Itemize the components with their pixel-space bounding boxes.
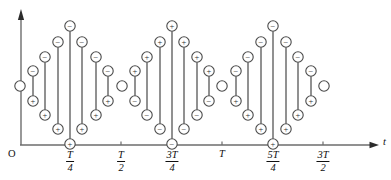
tick-label-five-t-quarter: 5T4 — [266, 149, 279, 174]
stem-node-bottom-symbol: − — [207, 96, 212, 106]
stem-node-bottom-symbol: + — [94, 110, 99, 120]
zero-node — [15, 81, 25, 91]
stem-node-top-symbol: − — [31, 66, 36, 76]
tick-label-t-half: T2 — [117, 149, 125, 174]
impulse-stem: −+ — [268, 21, 278, 150]
stem-node-top-symbol: − — [259, 37, 264, 47]
stem-node-top-symbol: − — [94, 52, 99, 62]
stems-layer: −+−+−+−+−+−+−++−+−+−+−+−+−+−−+−+−+−+−+−+… — [28, 21, 316, 150]
impulse-stem: −+ — [256, 37, 266, 135]
stem-node-top-symbol: − — [271, 21, 276, 31]
stem-node-bottom-symbol: + — [106, 96, 111, 106]
stem-node-bottom-symbol: + — [56, 124, 61, 134]
impulse-stem: +− — [192, 52, 202, 121]
origin-label: O — [8, 148, 16, 159]
impulse-stem: −+ — [28, 66, 38, 107]
x-axis-arrowhead — [370, 142, 380, 148]
stem-node-bottom-symbol: + — [43, 110, 48, 120]
stem-node-bottom-symbol: + — [31, 96, 36, 106]
impulse-stem: +− — [179, 37, 189, 135]
impulse-stem: −+ — [293, 52, 303, 121]
stem-node-bottom-symbol: + — [271, 139, 276, 149]
stem-node-top-symbol: + — [145, 52, 150, 62]
impulse-stem: −+ — [231, 66, 241, 107]
stem-node-top-symbol: − — [106, 66, 111, 76]
stem-node-top-symbol: − — [246, 52, 251, 62]
impulse-stem: +− — [130, 66, 140, 107]
impulse-stem: +− — [167, 21, 177, 150]
stem-node-bottom-symbol: + — [246, 110, 251, 120]
tick-label-numerator: 3T — [165, 149, 178, 162]
stem-node-top-symbol: − — [68, 21, 73, 31]
impulse-stem: −+ — [53, 37, 63, 135]
stem-node-top-symbol: − — [43, 52, 48, 62]
zero-node — [217, 81, 227, 91]
stem-node-bottom-symbol: + — [68, 139, 73, 149]
stem-node-bottom-symbol: + — [309, 96, 314, 106]
stem-node-top-symbol: − — [80, 37, 85, 47]
impulse-stem: −+ — [281, 37, 291, 135]
tick-label-text: T — [219, 148, 225, 159]
stem-node-top-symbol: + — [133, 66, 138, 76]
tick-label-numerator: T — [117, 149, 125, 162]
stem-node-bottom-symbol: − — [158, 124, 163, 134]
tick-label-numerator: 5T — [266, 149, 279, 162]
impulse-stem: −+ — [40, 52, 50, 121]
impulse-stem: −+ — [65, 21, 75, 150]
stem-node-bottom-symbol: − — [195, 110, 200, 120]
impulse-stem: +− — [155, 37, 165, 135]
stem-node-bottom-symbol: − — [133, 96, 138, 106]
tick-label-numerator: 3T — [316, 149, 329, 162]
stem-node-bottom-symbol: + — [296, 110, 301, 120]
impulse-stem: +− — [142, 52, 152, 121]
stem-node-bottom-symbol: + — [284, 124, 289, 134]
stem-node-bottom-symbol: + — [80, 124, 85, 134]
zero-node-circle — [217, 81, 227, 91]
impulse-stem: −+ — [306, 66, 316, 107]
x-axis-variable-label: t — [383, 136, 386, 147]
zero-node — [117, 81, 127, 91]
stem-node-bottom-symbol: − — [145, 110, 150, 120]
impulse-stem: −+ — [77, 37, 87, 135]
tick-label-denominator: 4 — [266, 162, 279, 174]
zero-node — [319, 81, 329, 91]
stem-node-top-symbol: − — [296, 52, 301, 62]
tick-label-numerator: T — [66, 149, 74, 162]
stem-node-top-symbol: − — [56, 37, 61, 47]
tick-label-three-t-quarter: 3T4 — [165, 149, 178, 174]
tick-label-three-t-half: 3T2 — [316, 149, 329, 174]
zero-node-circle — [319, 81, 329, 91]
stem-node-top-symbol: − — [309, 66, 314, 76]
zero-node-circle — [117, 81, 127, 91]
impulse-stem: −+ — [243, 52, 253, 121]
stem-node-top-symbol: + — [182, 37, 187, 47]
stem-node-top-symbol: − — [234, 66, 239, 76]
tick-label-denominator: 4 — [66, 162, 74, 174]
figure-canvas: −+−+−+−+−+−+−++−+−+−+−+−+−+−−+−+−+−+−+−+… — [0, 0, 391, 180]
impulse-stem: −+ — [91, 52, 101, 121]
stem-node-bottom-symbol: + — [259, 124, 264, 134]
impulse-plot: −+−+−+−+−+−+−++−+−+−+−+−+−+−−+−+−+−+−+−+… — [0, 0, 391, 180]
impulse-stem: −+ — [103, 66, 113, 107]
stem-node-top-symbol: + — [195, 52, 200, 62]
zero-node-circle — [15, 81, 25, 91]
stem-node-bottom-symbol: + — [234, 96, 239, 106]
stem-node-top-symbol: − — [284, 37, 289, 47]
tick-label-t-quarter: T4 — [66, 149, 74, 174]
impulse-stem: +− — [204, 66, 214, 107]
tick-label-denominator: 2 — [117, 162, 125, 174]
stem-node-top-symbol: + — [207, 66, 212, 76]
tick-label-t-one: T — [219, 149, 225, 160]
y-axis-arrowhead — [18, 9, 24, 20]
stem-node-bottom-symbol: − — [182, 124, 187, 134]
stem-node-bottom-symbol: − — [170, 139, 175, 149]
stem-node-top-symbol: + — [158, 37, 163, 47]
tick-label-denominator: 2 — [316, 162, 329, 174]
stem-node-top-symbol: + — [170, 21, 175, 31]
tick-label-denominator: 4 — [165, 162, 178, 174]
